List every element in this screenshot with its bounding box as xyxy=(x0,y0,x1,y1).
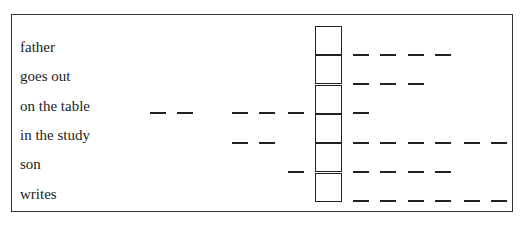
dash-mark xyxy=(380,83,396,85)
row-label: goes out xyxy=(20,67,70,85)
dash-mark xyxy=(408,83,424,85)
dash-mark xyxy=(380,200,396,202)
slot-cell xyxy=(315,55,342,84)
dash-mark xyxy=(353,54,369,56)
dash-mark xyxy=(491,200,507,202)
dash-mark xyxy=(232,142,248,144)
dash-mark xyxy=(232,112,248,114)
dash-mark xyxy=(435,54,451,56)
dash-mark xyxy=(353,83,369,85)
dash-mark xyxy=(408,200,424,202)
dash-mark xyxy=(380,171,396,173)
slot-cell xyxy=(315,85,342,114)
dash-mark xyxy=(408,142,424,144)
dash-mark xyxy=(177,112,193,114)
dash-mark xyxy=(288,171,304,173)
dash-mark xyxy=(353,142,369,144)
dash-mark xyxy=(491,142,507,144)
slot-cell xyxy=(315,26,342,55)
dash-mark xyxy=(380,142,396,144)
slot-cell xyxy=(315,114,342,143)
dash-mark xyxy=(288,112,304,114)
dash-mark xyxy=(435,171,451,173)
row-label: son xyxy=(20,155,41,173)
slot-cell xyxy=(315,173,342,202)
dash-mark xyxy=(259,112,275,114)
row-label: writes xyxy=(20,185,57,203)
dash-mark xyxy=(464,200,480,202)
row-label: in the study xyxy=(20,126,90,144)
dash-mark xyxy=(380,54,396,56)
row-label: on the table xyxy=(20,97,90,115)
slot-cell xyxy=(315,143,342,172)
dash-mark xyxy=(435,200,451,202)
row-label: father xyxy=(20,38,55,56)
dash-mark xyxy=(353,112,369,114)
dash-mark xyxy=(435,142,451,144)
dash-mark xyxy=(353,200,369,202)
dash-mark xyxy=(259,142,275,144)
dash-mark xyxy=(408,171,424,173)
dash-mark xyxy=(408,54,424,56)
dash-mark xyxy=(353,171,369,173)
dash-mark xyxy=(464,142,480,144)
dash-mark xyxy=(150,112,166,114)
